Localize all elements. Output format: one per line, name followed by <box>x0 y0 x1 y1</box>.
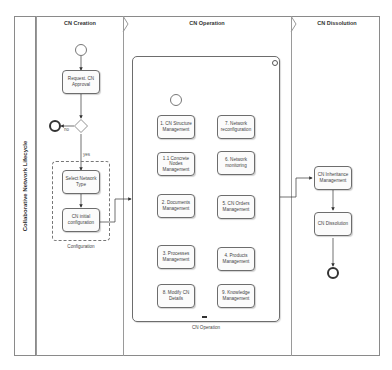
task-network-reconfiguration[interactable]: 7. Network reconfiguration <box>217 115 255 139</box>
task-documents-management[interactable]: 2. Documents Management <box>157 194 195 218</box>
gateway-yes-label: yes <box>83 152 90 157</box>
lane-divider-creation-operation <box>123 16 124 356</box>
subprocess-cn-operation[interactable] <box>132 56 280 322</box>
task-request-cn-approval[interactable]: Request. CN Approval <box>62 70 100 94</box>
task-cn-dissolution[interactable]: CN Dissolution <box>314 212 352 236</box>
gateway-no-label: no <box>64 127 69 132</box>
task-processes-management[interactable]: 3. Processes Management <box>157 245 195 269</box>
collapse-marker-icon[interactable] <box>202 316 207 318</box>
configuration-group-label: Configuration <box>67 244 94 249</box>
gateway-approval <box>74 119 88 133</box>
end-event-rejected <box>49 120 61 132</box>
end-event-dissolution <box>327 267 339 279</box>
pool-label: Collaborative Network Lifecycle <box>22 141 28 232</box>
gateway-diamond-icon <box>74 119 88 133</box>
task-network-monitoring[interactable]: 6. Network monitoring <box>217 151 255 175</box>
task-cn-structure-management[interactable]: 1. CN Structure Management <box>157 115 195 139</box>
subprocess-marker-icon <box>272 60 278 66</box>
task-cn-inheritance-management[interactable]: CN Inheritance Management <box>314 166 352 190</box>
lane-divider-operation-dissolution <box>291 16 292 356</box>
task-cn-initial-configuration[interactable]: CN initial configuration <box>62 208 100 232</box>
task-knowledge-management[interactable]: 9. Knowledge Management <box>217 284 255 308</box>
lane-title-cn-dissolution: CN Dissolution <box>317 20 356 26</box>
task-products-management[interactable]: 4. Products Management <box>217 247 255 271</box>
task-concrete-nodes-management[interactable]: 1.1 Concrete Nodes Management <box>157 152 195 176</box>
lane-title-cn-creation: CN Creation <box>64 20 96 26</box>
start-event-creation <box>75 44 87 56</box>
task-select-network-type[interactable]: Select Network Type <box>62 170 100 194</box>
task-cn-orders-management[interactable]: 5. CN Orders Management <box>217 195 255 219</box>
lane-divider-left <box>36 16 37 356</box>
start-event-operation <box>170 94 182 106</box>
lane-title-cn-operation: CN Operation <box>189 20 224 26</box>
subprocess-label: CN Operation <box>192 325 220 330</box>
task-modify-cn-details[interactable]: 8. Modify CN Details <box>157 284 195 308</box>
